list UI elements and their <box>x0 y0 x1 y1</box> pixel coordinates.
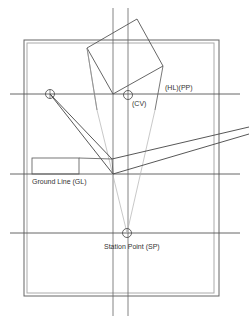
inner-frame <box>27 43 214 293</box>
vp-line-lower <box>50 94 113 174</box>
hl-pp-label: (HL)(PP) <box>165 84 193 91</box>
ground-box-connector <box>79 158 112 159</box>
plan-square <box>87 19 163 94</box>
diagram-canvas <box>0 0 249 326</box>
vp-line-upper <box>50 94 112 159</box>
station-point-label: Station Point (SP) <box>104 243 160 250</box>
projector-right <box>155 66 163 110</box>
outer-frame <box>24 40 219 296</box>
cv-label: (CV) <box>132 100 146 107</box>
perspective-diagram: (HL)(PP) (CV) Ground Line (GL) Station P… <box>0 0 249 326</box>
sight-line-right <box>127 110 155 233</box>
ground-line-label: Ground Line (GL) <box>32 178 86 185</box>
ground-box <box>32 158 79 174</box>
